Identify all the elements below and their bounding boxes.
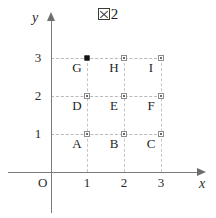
x-axis-arrow-icon xyxy=(197,168,206,176)
y-tick-3: 3 xyxy=(30,50,46,66)
point-marker-h xyxy=(121,55,127,61)
point-label-f: F xyxy=(147,98,154,114)
point-label-h: H xyxy=(109,60,118,76)
point-marker-b xyxy=(121,131,127,137)
point-label-d: D xyxy=(72,98,81,114)
gridline-x3 xyxy=(161,58,162,172)
y-axis-arrow-icon xyxy=(47,12,55,21)
gridline-x1 xyxy=(87,58,88,172)
point-label-g: G xyxy=(72,60,81,76)
point-marker-a xyxy=(84,131,90,137)
point-marker-e xyxy=(121,93,127,99)
point-label-a: A xyxy=(72,136,81,152)
x-axis-label: x xyxy=(199,176,205,192)
figure-caption-number: 2 xyxy=(111,6,119,22)
point-marker-c xyxy=(158,131,164,137)
x-tick-1: 1 xyxy=(79,175,95,191)
y-tick-2: 2 xyxy=(30,88,46,104)
x-axis-line xyxy=(8,172,200,173)
y-tick-1: 1 xyxy=(30,126,46,142)
x-tick-2: 2 xyxy=(116,175,132,191)
point-marker-d xyxy=(84,93,90,99)
point-marker-g xyxy=(85,56,90,61)
missing-glyph-box-icon xyxy=(98,8,110,20)
point-marker-i xyxy=(158,55,164,61)
point-label-c: C xyxy=(147,136,156,152)
point-marker-f xyxy=(158,93,164,99)
gridline-y3 xyxy=(51,58,162,59)
gridline-y1 xyxy=(51,134,162,135)
y-axis-label: y xyxy=(32,10,38,26)
y-axis-line xyxy=(51,18,52,213)
point-label-b: B xyxy=(110,136,119,152)
gridline-x2 xyxy=(124,58,125,172)
point-label-e: E xyxy=(110,98,118,114)
coordinate-grid-figure: 2 y x O 3 2 1 1 2 3 A B C D E F G H I xyxy=(0,0,216,218)
point-label-i: I xyxy=(149,60,153,76)
gridline-y2 xyxy=(51,96,162,97)
origin-label: O xyxy=(38,175,47,191)
x-tick-3: 3 xyxy=(153,175,169,191)
